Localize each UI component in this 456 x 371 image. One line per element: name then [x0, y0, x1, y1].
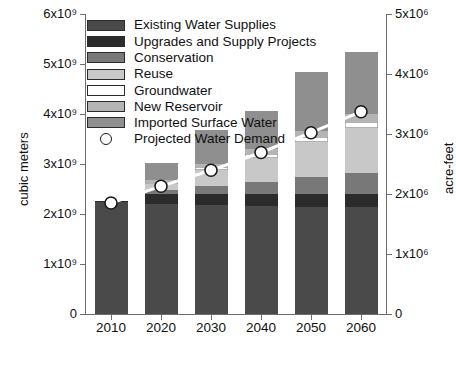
- legend-swatch: [87, 52, 125, 63]
- legend-item[interactable]: Projected Water Demand: [87, 131, 316, 147]
- right-tick-label: 0: [395, 307, 402, 320]
- left-tick: [80, 214, 85, 215]
- chart-legend: Existing Water SuppliesUpgrades and Supp…: [87, 17, 316, 147]
- legend-item[interactable]: Groundwater: [87, 82, 316, 98]
- x-tick-label: 2040: [236, 321, 286, 335]
- left-axis-title: cubic meters: [16, 132, 31, 206]
- x-tick-label: 2050: [286, 321, 336, 335]
- legend-item[interactable]: Conservation: [87, 50, 316, 66]
- legend-swatch: [87, 101, 125, 112]
- legend-swatch: [87, 85, 125, 96]
- legend-circle-marker-icon: [87, 133, 125, 146]
- legend-item-label: Existing Water Supplies: [134, 18, 276, 32]
- left-tick: [80, 114, 85, 115]
- legend-swatch: [87, 117, 125, 128]
- legend-item-label: Imported Surface Water: [134, 116, 277, 130]
- left-tick-label: 1x10⁹: [43, 257, 77, 270]
- legend-swatch: [87, 20, 125, 31]
- right-tick: [387, 314, 392, 315]
- left-tick-label: 4x10⁹: [43, 107, 77, 120]
- demand-marker: [105, 197, 117, 209]
- x-tick-label: 2020: [136, 321, 186, 335]
- x-tick-label: 2030: [186, 321, 236, 335]
- bottom-axis-line: [85, 314, 387, 315]
- left-tick-label: 0: [70, 307, 77, 320]
- right-tick: [387, 254, 392, 255]
- demand-marker: [355, 106, 367, 118]
- left-tick: [80, 64, 85, 65]
- right-tick-label: 1x10⁶: [395, 247, 429, 260]
- right-axis-title: acre-feet: [441, 143, 456, 194]
- left-tick-label: 3x10⁹: [43, 157, 77, 170]
- demand-marker: [255, 147, 267, 159]
- left-tick-label: 6x10⁹: [43, 7, 77, 20]
- x-tick-label: 2060: [336, 321, 386, 335]
- legend-item-label: Conservation: [134, 51, 214, 65]
- left-tick-label: 5x10⁹: [43, 57, 77, 70]
- legend-swatch: [87, 36, 125, 47]
- legend-item[interactable]: New Reservoir: [87, 98, 316, 114]
- right-tick: [387, 194, 392, 195]
- demand-marker: [205, 164, 217, 176]
- right-tick-label: 5x10⁶: [395, 7, 429, 20]
- demand-marker: [155, 180, 167, 192]
- legend-item[interactable]: Upgrades and Supply Projects: [87, 33, 316, 49]
- right-tick: [387, 134, 392, 135]
- legend-item-label: Projected Water Demand: [134, 132, 285, 146]
- legend-item[interactable]: Imported Surface Water: [87, 115, 316, 131]
- right-axis-line: [386, 14, 387, 314]
- legend-swatch: [87, 69, 125, 80]
- right-tick: [387, 74, 392, 75]
- legend-item[interactable]: Existing Water Supplies: [87, 17, 316, 33]
- right-tick-label: 3x10⁶: [395, 127, 429, 140]
- left-tick: [80, 14, 85, 15]
- left-tick: [80, 264, 85, 265]
- left-tick: [80, 164, 85, 165]
- legend-item-label: Groundwater: [134, 84, 212, 98]
- left-tick-label: 2x10⁹: [43, 207, 77, 220]
- right-tick: [387, 14, 392, 15]
- legend-item[interactable]: Reuse: [87, 66, 316, 82]
- legend-item-label: Upgrades and Supply Projects: [134, 35, 316, 49]
- right-tick-label: 4x10⁶: [395, 67, 429, 80]
- legend-item-label: Reuse: [134, 67, 173, 81]
- right-tick-label: 2x10⁶: [395, 187, 429, 200]
- x-tick-label: 2010: [86, 321, 136, 335]
- legend-item-label: New Reservoir: [134, 100, 223, 114]
